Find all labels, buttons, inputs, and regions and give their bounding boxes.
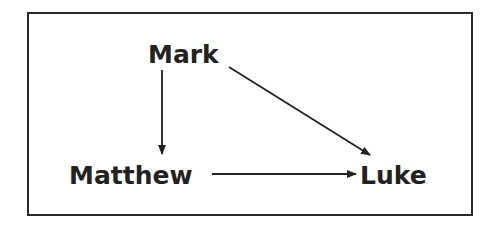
edge-mark-luke bbox=[229, 67, 370, 155]
edges-layer bbox=[0, 0, 489, 227]
